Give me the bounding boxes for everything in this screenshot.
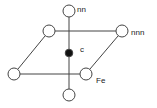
carbon-atom-center — [65, 49, 73, 57]
label-fe: Fe — [96, 76, 106, 85]
atoms — [8, 5, 128, 101]
plane-left-edge — [18, 36, 45, 69]
plane-right-edge — [90, 36, 118, 69]
fe-atom-bottom-left — [8, 68, 20, 80]
lattice-diagram: nn nnn c Fe — [0, 0, 157, 108]
label-nn: nn — [77, 5, 86, 14]
nnn-atom-top-right — [116, 25, 128, 37]
fe-atom-bottom-right — [80, 68, 92, 80]
fe-atom-top-left — [43, 25, 55, 37]
label-c: c — [80, 45, 84, 54]
nn-atom-top — [63, 5, 75, 17]
atom-bottom — [63, 89, 75, 101]
label-nnn: nnn — [131, 28, 144, 37]
